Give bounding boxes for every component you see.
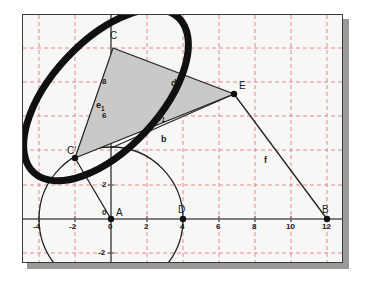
x-tick-label-10: 10: [286, 223, 295, 231]
y-tick-label-8: 8: [102, 78, 106, 86]
point-label-C: C: [110, 31, 117, 41]
segment-label-g-one: g1: [156, 112, 165, 123]
point-label-E: E: [239, 81, 246, 91]
point-E[interactable]: [231, 91, 237, 97]
segment-label-e-one-sub: 1: [101, 105, 105, 112]
x-tick-label-4: 4: [180, 223, 184, 231]
y-tick-label-6: 6: [102, 112, 106, 120]
figure-stage: -4 -2 0 2 4 6 8 10 12 -2 0 2 6 8 A B D C…: [0, 0, 366, 286]
point-label-Cprime: C': [67, 146, 76, 156]
segment-label-g-one-sub: 1: [162, 116, 166, 123]
segment-label-d-prime: d': [171, 79, 179, 88]
y-tick-label-0: 0: [102, 209, 106, 217]
x-tick-label-0: 0: [108, 223, 112, 231]
graph-panel: -4 -2 0 2 4 6 8 10 12 -2 0 2 6 8 A B D C…: [22, 14, 343, 263]
x-tick-label-12: 12: [322, 223, 331, 231]
segment-label-b: b: [161, 135, 167, 144]
point-label-B: B: [322, 205, 329, 215]
point-label-A: A: [116, 208, 123, 218]
point-label-D: D: [178, 205, 185, 215]
segment-label-f: f: [264, 156, 267, 165]
x-tick-label-2: 2: [144, 223, 148, 231]
y-tick-label-2: 2: [102, 181, 106, 189]
segment-label-e-one: e1: [96, 101, 105, 112]
x-tick-label-6: 6: [216, 223, 220, 231]
x-tick-label-8: 8: [252, 223, 256, 231]
y-tick-label--2: -2: [98, 249, 105, 257]
segment-f-E-B: [234, 94, 327, 219]
x-tick-label--4: -4: [33, 223, 40, 231]
x-tick-label--2: -2: [69, 223, 76, 231]
